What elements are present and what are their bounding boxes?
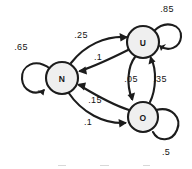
node-n[interactable]: N xyxy=(46,62,78,94)
weight-label-n-n: .65 xyxy=(14,42,27,52)
node-o-label: O xyxy=(140,113,147,123)
markov-chain-diagram: N U O .65 .85 .5 .25 .1 .15 .1 .05 .35 xyxy=(0,0,192,169)
weight-label-n-u: .25 xyxy=(74,30,87,40)
weight-label-o-o: .5 xyxy=(162,147,170,157)
weight-label-o-u: .35 xyxy=(153,74,166,84)
edge-o-to-n-path xyxy=(79,85,129,110)
weight-label-u-u: .85 xyxy=(160,4,173,14)
node-n-label: N xyxy=(59,74,65,84)
edge-u-to-n-path xyxy=(80,50,128,71)
diagram-canvas: N U O .65 .85 .5 .25 .1 .15 .1 .05 .35 xyxy=(0,0,192,169)
weight-label-u-n: .1 xyxy=(94,52,102,62)
edge-o-to-n xyxy=(77,83,129,111)
weight-label-o-n: .15 xyxy=(88,95,101,105)
node-u-label: U xyxy=(140,38,146,48)
weight-label-n-o: .1 xyxy=(84,117,92,127)
node-o[interactable]: O xyxy=(128,102,158,132)
edge-n-to-o-arrowhead xyxy=(119,119,128,128)
edge-u-to-n xyxy=(78,50,128,75)
weight-label-u-o: .05 xyxy=(124,74,137,84)
node-u[interactable]: U xyxy=(127,26,159,58)
